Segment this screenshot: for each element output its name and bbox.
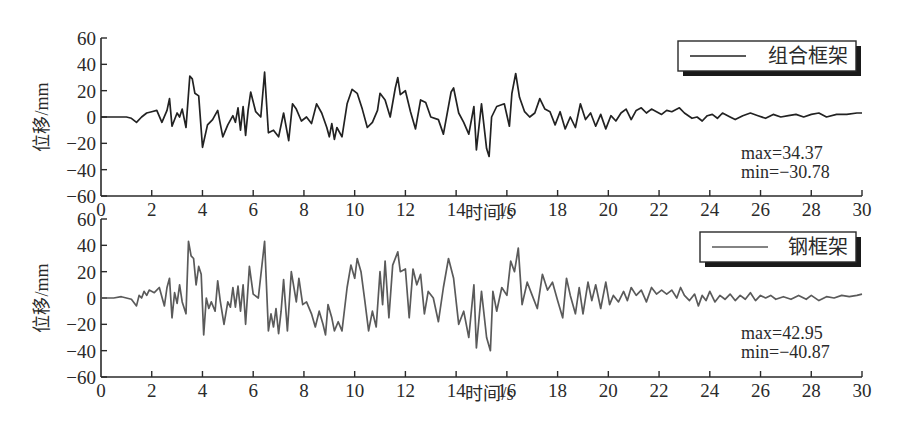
legend-label: 钢框架	[788, 236, 848, 258]
legend-label: 组合框架	[768, 45, 848, 67]
x-tick-label: 30	[853, 199, 872, 220]
x-tick-label: 12	[396, 380, 415, 401]
max-min-annotation: max=34.37min=−30.78	[741, 143, 830, 182]
y-tick-label: 40	[77, 54, 96, 75]
x-tick-label: 2	[147, 199, 157, 220]
x-tick-label: 20	[599, 380, 618, 401]
x-tick-label: 8	[299, 380, 309, 401]
x-tick-label: 26	[751, 199, 770, 220]
max-annotation: max=42.95	[741, 323, 823, 343]
y-tick-label: −20	[66, 133, 96, 154]
x-tick-label: 22	[650, 380, 669, 401]
x-tick-label: 10	[345, 380, 364, 401]
x-tick-label: 28	[802, 380, 821, 401]
x-tick-label: 18	[548, 199, 567, 220]
x-tick-label: 6	[248, 380, 258, 401]
x-tick-label: 6	[248, 199, 258, 220]
x-axis-title: 时间/s	[465, 203, 513, 223]
y-tick-label: 20	[77, 262, 96, 283]
x-tick-label: 22	[650, 199, 669, 220]
x-tick-label: 4	[198, 380, 208, 401]
y-tick-label: −60	[66, 367, 96, 388]
x-tick-label: 18	[548, 380, 567, 401]
x-tick-label: 2	[147, 380, 157, 401]
y-axis-title: 位移/mm	[32, 82, 52, 151]
max-annotation: max=34.37	[741, 143, 823, 163]
y-tick-label: 40	[77, 235, 96, 256]
y-tick-label: 0	[87, 288, 97, 309]
chart-canvas: 6040200−20−40−60024681012141618202224262…	[0, 0, 904, 439]
min-annotation: min=−30.78	[741, 162, 830, 182]
y-tick-label: −40	[66, 160, 96, 181]
x-tick-label: 26	[751, 380, 770, 401]
min-annotation: min=−40.87	[741, 342, 830, 362]
x-axis-title: 时间/s	[465, 384, 513, 404]
x-tick-label: 24	[700, 199, 720, 220]
y-tick-label: 60	[77, 28, 96, 49]
x-tick-label: 0	[96, 199, 106, 220]
y-axis-title: 位移/mm	[32, 263, 52, 332]
y-tick-label: −40	[66, 341, 96, 362]
chart-panel-steel-frame: 6040200−20−40−60024681012141618202224262…	[32, 209, 872, 404]
x-tick-label: 24	[700, 380, 720, 401]
legend: 钢框架	[700, 232, 861, 267]
y-tick-label: −60	[66, 186, 96, 207]
x-tick-label: 12	[396, 199, 415, 220]
y-tick-label: −20	[66, 314, 96, 335]
x-tick-label: 30	[853, 380, 872, 401]
max-min-annotation: max=42.95min=−40.87	[741, 323, 830, 362]
y-tick-label: 20	[77, 81, 96, 102]
y-tick-label: 60	[77, 209, 96, 230]
y-tick-label: 0	[87, 107, 97, 128]
x-tick-label: 14	[447, 380, 467, 401]
x-tick-label: 4	[198, 199, 208, 220]
figure: 6040200−20−40−60024681012141618202224262…	[0, 0, 904, 439]
x-tick-label: 14	[447, 199, 467, 220]
x-tick-label: 28	[802, 199, 821, 220]
x-tick-label: 0	[96, 380, 106, 401]
chart-panel-composite-frame: 6040200−20−40−60024681012141618202224262…	[32, 28, 872, 223]
x-tick-label: 8	[299, 199, 309, 220]
x-tick-label: 20	[599, 199, 618, 220]
legend: 组合框架	[678, 41, 861, 76]
x-tick-label: 10	[345, 199, 364, 220]
